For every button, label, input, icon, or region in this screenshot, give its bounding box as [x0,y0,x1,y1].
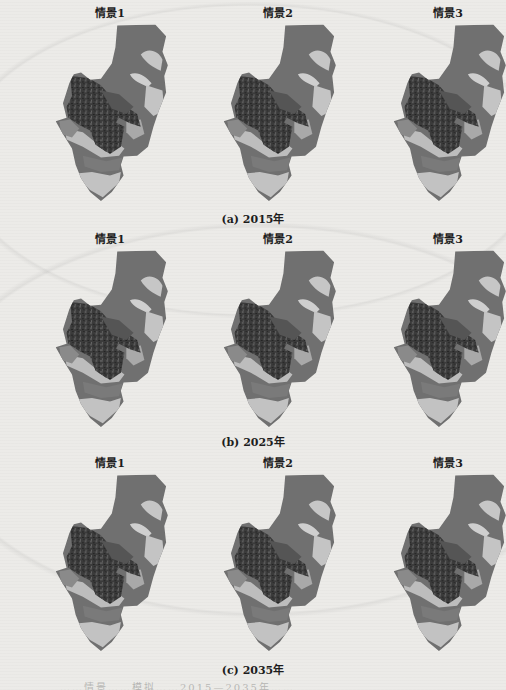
panel-title: 情景3 [378,4,506,20]
land-use-map [40,246,180,436]
land-use-map [378,20,506,210]
land-use-map [40,470,180,660]
row-caption-2035: (c) 2035年 [0,661,506,677]
row-caption-2025: (b) 2025年 [0,433,506,449]
land-use-map [208,470,348,660]
panel-title: 情景3 [378,230,506,246]
panel-title: 情景2 [208,454,348,470]
land-use-map [208,246,348,436]
row-2025: 情景1 情景2 情景3 [0,230,506,452]
land-use-map [378,246,506,436]
land-use-map [378,470,506,660]
row-2015: 情景1 情景2 情景3 [0,4,506,226]
panel-title: 情景3 [378,454,506,470]
row-2035: 情景1 情景2 情景3 [0,454,506,676]
land-use-map [208,20,348,210]
panel-title: 情景2 [208,230,348,246]
panel-title: 情景1 [40,454,180,470]
figure-caption-partial: ……情景……模拟……2015—2035年…… [60,679,460,690]
row-caption-2015: (a) 2015年 [0,210,506,226]
panel-title: 情景2 [208,4,348,20]
panel-title: 情景1 [40,230,180,246]
land-use-map [40,20,180,210]
panel-title: 情景1 [40,4,180,20]
